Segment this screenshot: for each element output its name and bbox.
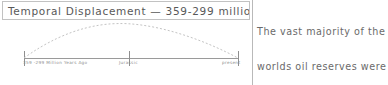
displacement-curve bbox=[24, 24, 238, 58]
article-body: The vast majority of the worlds oil rese… bbox=[257, 3, 388, 85]
axis-tick-label-middle: Jurassic bbox=[119, 60, 138, 65]
figure-with-caption: Temporal Displacement — 359-299 million … bbox=[0, 0, 388, 85]
figure-title-box: Temporal Displacement — 359-299 million … bbox=[2, 1, 250, 20]
timeline-figure-panel: Temporal Displacement — 359-299 million … bbox=[0, 0, 253, 85]
figure-title: Temporal Displacement — 359-299 million … bbox=[3, 5, 250, 17]
article-line: The vast majority of the bbox=[257, 26, 388, 38]
axis-tick-label-end: present bbox=[222, 60, 240, 65]
timeline-svg bbox=[0, 20, 252, 85]
timeline-plot-area: 359 -299 Million Years Ago Jurassic pres… bbox=[0, 20, 252, 85]
article-text-panel: The vast majority of the worlds oil rese… bbox=[254, 0, 388, 85]
article-line: worlds oil reserves were bbox=[257, 61, 388, 73]
axis-tick-label-start: 359 -299 Million Years Ago bbox=[23, 60, 88, 65]
